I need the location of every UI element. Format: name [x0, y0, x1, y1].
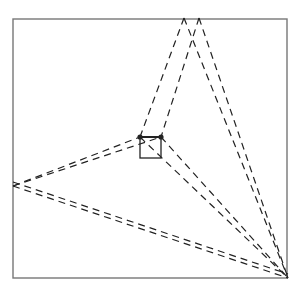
dashed-line — [161, 137, 288, 278]
dashed-line — [140, 18, 184, 137]
dashed-line — [13, 137, 140, 186]
diagram-canvas — [0, 0, 300, 295]
dashed-line — [199, 18, 288, 278]
dashed-line — [13, 182, 288, 274]
dashed-lines — [13, 18, 288, 278]
dashed-line — [13, 137, 161, 186]
dashed-line — [184, 18, 288, 278]
vertex-dots — [137, 134, 163, 139]
dashed-line — [140, 137, 288, 278]
outer-frame — [13, 19, 287, 278]
dashed-line — [161, 18, 199, 137]
dashed-line — [13, 186, 288, 278]
